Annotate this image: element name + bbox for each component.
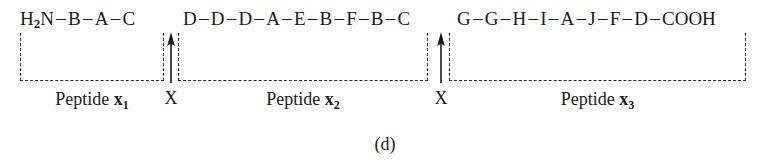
sequence-segment-peptide-3: G–G–H–I–A–J–F–D–COOH	[457, 6, 716, 32]
bond-dash: –	[498, 5, 512, 31]
peptide-label-2-variable: x	[325, 89, 334, 109]
bracket-peptide-1	[20, 33, 164, 81]
bond-dash: –	[332, 5, 346, 31]
residue: D	[238, 8, 252, 29]
bond-dash: –	[547, 5, 561, 31]
residue: D	[211, 8, 225, 29]
bond-dash: –	[620, 5, 634, 31]
peptide-label-3: Peptide x3	[449, 88, 746, 116]
residue: B	[320, 8, 333, 29]
residue: B	[371, 8, 384, 29]
bond-dash: –	[280, 5, 294, 31]
cleavage-arrow-1	[164, 31, 178, 83]
sequence-segment-peptide-2: D–D–D–A–E–B–F–B–C	[183, 6, 410, 32]
bond-dash: –	[384, 5, 398, 31]
cleavage-arrow-2	[434, 31, 448, 83]
bond-dash: –	[81, 5, 95, 31]
bond-dash: –	[224, 5, 238, 31]
residue: C	[122, 8, 135, 29]
peptide-label-2: Peptide x2	[178, 88, 428, 116]
bond-dash: –	[526, 5, 540, 31]
residue: D	[634, 8, 648, 29]
peptide-label-2-subscript: 2	[334, 98, 340, 112]
c-terminus-label: COOH	[662, 8, 716, 29]
residue: D	[183, 8, 197, 29]
up-arrow-icon	[164, 31, 178, 83]
bond-dash: –	[108, 5, 122, 31]
peptide-label-1-subscript: 1	[123, 98, 129, 112]
residue: A	[561, 8, 575, 29]
bracket-peptide-2	[178, 33, 428, 81]
peptide-label-2-prefix: Peptide	[266, 89, 320, 109]
figure-caption: (d)	[0, 133, 770, 155]
bond-dash: –	[471, 5, 485, 31]
residue: B	[68, 8, 81, 29]
amino-acid-sequence-row: H2N–B–A–C D–D–D–A–E–B–F–B–C G–G–H–I–A–J–…	[0, 6, 770, 32]
bond-dash: –	[648, 5, 662, 31]
residue: F	[346, 8, 357, 29]
bracket-peptide-3	[449, 33, 746, 81]
peptide-label-1-prefix: Peptide	[55, 89, 109, 109]
residue: G	[457, 8, 471, 29]
bond-dash: –	[197, 5, 211, 31]
bond-dash: –	[357, 5, 371, 31]
bond-dash: –	[574, 5, 588, 31]
peptide-cleavage-figure: H2N–B–A–C D–D–D–A–E–B–F–B–C G–G–H–I–A–J–…	[0, 0, 770, 167]
peptide-label-3-prefix: Peptide	[561, 89, 615, 109]
residue: A	[266, 8, 280, 29]
peptide-label-3-variable: x	[619, 89, 628, 109]
peptide-label-1-variable: x	[114, 89, 123, 109]
residue: A	[95, 8, 109, 29]
bond-dash: –	[54, 5, 68, 31]
residue: E	[294, 8, 306, 29]
residue: F	[610, 8, 621, 29]
bond-dash: –	[252, 5, 266, 31]
cleavage-site-label-2: X	[431, 88, 451, 108]
n-terminus-label: H2N	[20, 8, 54, 29]
bond-dash: –	[306, 5, 320, 31]
up-arrow-icon	[434, 31, 448, 83]
peptide-label-1: Peptide x1	[20, 88, 164, 116]
sequence-segment-peptide-1: H2N–B–A–C	[20, 6, 135, 37]
residue: G	[485, 8, 499, 29]
residue: C	[398, 8, 411, 29]
bond-dash: –	[596, 5, 610, 31]
residue: H	[512, 8, 526, 29]
peptide-label-3-subscript: 3	[628, 98, 634, 112]
residue: J	[588, 8, 595, 29]
